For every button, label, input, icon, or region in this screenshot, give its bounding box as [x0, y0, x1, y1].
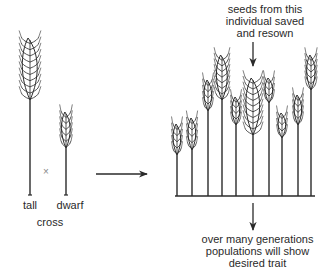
wheat-plant-offspring: [277, 106, 288, 197]
dwarf-label: dwarf: [52, 199, 88, 211]
wheat-plant-offspring: [214, 47, 230, 196]
annotation-line: individual saved: [205, 15, 325, 27]
annotation-line: over many generations: [185, 233, 330, 245]
outcome-annotation: over many generations populations will s…: [185, 233, 330, 269]
annotation-line: seeds from this: [205, 3, 325, 15]
tall-label: tall: [18, 199, 42, 211]
wheat-plant-offspring: [172, 116, 183, 196]
cross-symbol: ×: [40, 166, 52, 178]
offspring-population: [172, 47, 318, 196]
wheat-plant-offspring: [293, 87, 304, 196]
wheat-plant-offspring: [243, 70, 263, 196]
annotation-line: and resown: [205, 27, 325, 39]
annotation-line: populations will show: [185, 245, 330, 257]
selection-annotation: seeds from this individual saved and res…: [205, 3, 325, 39]
wheat-plant-offspring: [203, 72, 214, 196]
wheat-plant-offspring: [305, 47, 317, 196]
wheat-plant-offspring: [231, 89, 242, 196]
wheat-plant-tall: [19, 30, 41, 195]
wheat-plant-offspring: [186, 111, 197, 196]
wheat-plant-offspring: [264, 71, 275, 197]
annotation-line: desired trait: [185, 257, 330, 269]
cross-label: cross: [30, 216, 70, 228]
wheat-plant-dwarf: [60, 104, 73, 195]
